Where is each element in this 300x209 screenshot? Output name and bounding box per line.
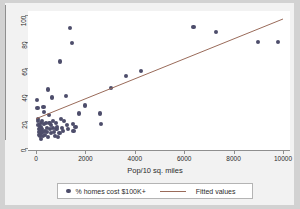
x-axis-tick-label: 0: [34, 155, 38, 162]
x-axis-tick-label: 2000: [78, 155, 92, 162]
y-axis-line: [5, 5, 6, 140]
x-axis-tick: [234, 151, 235, 154]
chart-legend: % homes cost $100K+ Fitted values: [57, 183, 253, 199]
x-axis-tick: [85, 151, 86, 154]
x-axis-line: [28, 150, 290, 151]
y-axis-tick-label: 60: [21, 68, 28, 75]
figure-canvas: 020406080100 0200040006000800010000 Pop/…: [5, 3, 294, 205]
x-axis-tick-label: 6000: [177, 155, 191, 162]
x-axis-tick-label: 10000: [274, 155, 292, 162]
y-axis-tick-label: 40: [21, 95, 28, 102]
legend-scatter-label: % homes cost $100K+: [76, 188, 146, 195]
y-axis-tick-label: 20: [21, 121, 28, 128]
legend-line-icon: [160, 191, 186, 192]
y-axis-tick-label: 80: [21, 42, 28, 49]
figure-root: 020406080100 0200040006000800010000 Pop/…: [0, 0, 300, 209]
x-axis-title: Pop/10 sq. miles: [5, 166, 300, 175]
x-axis-tick: [283, 151, 284, 154]
legend-scatter-marker-icon: [66, 189, 71, 194]
plot-panel: [28, 11, 290, 150]
x-axis-tick-label: 4000: [128, 155, 142, 162]
y-axis-tick-label: 100: [21, 15, 28, 26]
legend-line-label: Fitted values: [196, 188, 236, 195]
x-axis-tick: [184, 151, 185, 154]
y-axis-tick-label: 0: [21, 148, 28, 152]
x-axis-tick-label: 8000: [226, 155, 240, 162]
x-axis-tick: [36, 151, 37, 154]
x-axis-tick: [135, 151, 136, 154]
fitted-line: [28, 11, 290, 150]
